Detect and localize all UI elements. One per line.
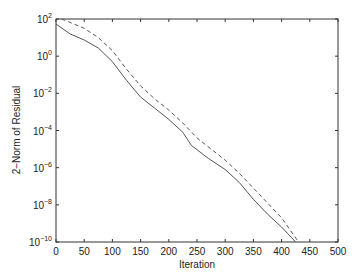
x-tick-label: 400 xyxy=(273,246,290,257)
plot-area xyxy=(56,19,338,242)
x-tick-label: 500 xyxy=(330,246,347,257)
y-tick-label: 100 xyxy=(37,49,52,62)
x-axis-label: Iteration xyxy=(179,259,215,270)
x-tick-label: 200 xyxy=(160,246,177,257)
x-tick-label: 350 xyxy=(245,246,262,257)
y-axis-label: 2−Norm of Residual xyxy=(11,86,22,175)
y-tick-label: 10−2 xyxy=(33,86,52,99)
x-tick-label: 300 xyxy=(217,246,234,257)
y-tick-label: 10−8 xyxy=(33,198,52,211)
residual-chart: 050100150200250300350400450500 10210010−… xyxy=(0,0,364,278)
x-tick-label: 150 xyxy=(132,246,149,257)
x-tick-label: 250 xyxy=(189,246,206,257)
y-tick-label: 10−4 xyxy=(33,124,52,137)
x-tick-label: 100 xyxy=(104,246,121,257)
y-tick-label: 102 xyxy=(37,12,52,25)
x-tick-label: 50 xyxy=(79,246,91,257)
y-tick-label: 10−10 xyxy=(29,235,52,248)
x-tick-label: 0 xyxy=(53,246,59,257)
y-tick-label: 10−6 xyxy=(33,161,52,174)
x-tick-label: 450 xyxy=(301,246,318,257)
